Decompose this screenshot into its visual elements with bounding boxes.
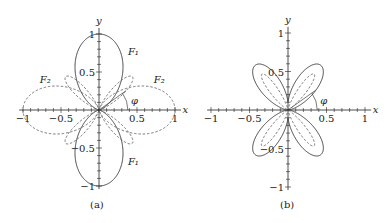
caption-b: (b) xyxy=(280,199,294,210)
x-tick-label: −0.5 xyxy=(49,113,73,124)
curve-label: F₂ xyxy=(153,74,165,85)
polar-lobe-figure: xy−1−0.50.5110.5−0.5−1φF₁F₁F₂F₂ xy−1−0.5… xyxy=(0,0,387,223)
x-tick-label: −1 xyxy=(16,113,31,124)
caption-a: (a) xyxy=(90,199,104,210)
y-tick-label: −1 xyxy=(269,182,284,193)
y-tick-label: 0.5 xyxy=(268,67,284,78)
angle-phi-label: φ xyxy=(320,95,327,106)
angle-phi-label: φ xyxy=(131,95,138,106)
panel-a: xy−1−0.50.5110.5−0.5−1φF₁F₁F₂F₂ xyxy=(16,15,189,192)
x-tick-label: 0.5 xyxy=(129,113,145,124)
x-tick-label: −1 xyxy=(204,113,219,124)
y-tick-label: 1 xyxy=(278,28,284,39)
x-tick-label: 1 xyxy=(362,113,368,124)
x-tick-label: −0.5 xyxy=(237,113,261,124)
panel-b: xy−1−0.50.5110.5−0.5−1φ xyxy=(204,14,379,193)
y-axis-label: y xyxy=(95,15,102,26)
x-tick-label: 0.5 xyxy=(319,113,335,124)
y-tick-label: −0.5 xyxy=(71,143,95,154)
curve-label: F₁ xyxy=(127,46,139,57)
curve-label: F₁ xyxy=(127,156,139,167)
y-tick-label: 0.5 xyxy=(79,67,95,78)
x-axis-label: x xyxy=(373,104,379,115)
x-axis-label: x xyxy=(183,104,189,115)
y-axis-label: y xyxy=(284,14,291,25)
curve-label: F₂ xyxy=(39,74,51,85)
